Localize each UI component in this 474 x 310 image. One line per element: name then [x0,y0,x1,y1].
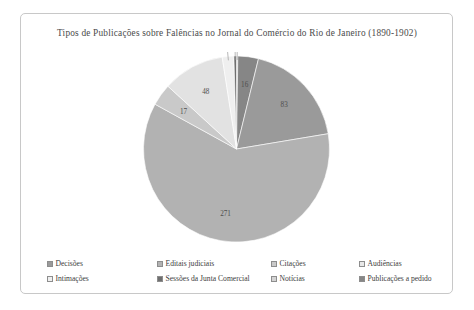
legend-row-1: Decisões Editais judiciais Citações Audi… [33,256,442,271]
legend-item-audiencias[interactable]: Audiências [359,259,442,268]
legend-swatch-intimacoes [47,276,53,282]
legend-item-intimacoes[interactable]: Intimações [33,274,157,283]
legend-label-citacoes: Citações [280,259,306,268]
legend-label-noticias: Notícias [280,274,305,283]
legend-item-citacoes[interactable]: Citações [271,259,359,268]
legend-item-publicacoes-a-pedido[interactable]: Publicações a pedido [359,274,442,283]
legend-label-editais-judiciais: Editais judiciais [166,259,215,268]
legend-swatch-decisoes [47,261,53,267]
legend-item-noticias[interactable]: Notícias [271,274,359,283]
legend-swatch-editais-judiciais [157,261,163,267]
legend-swatch-audiencias [359,261,365,267]
legend-label-decisoes: Decisões [56,259,83,268]
legend-item-editais-judiciais[interactable]: Editais judiciais [157,259,271,268]
legend-swatch-citacoes [271,261,277,267]
pie-slice-value-label: 17 [180,108,188,116]
pie-chart-svg: 11683271174892 [21,52,452,252]
legend-label-publicacoes-a-pedido: Publicações a pedido [368,274,432,283]
pie-slice-value-label: 271 [220,210,231,218]
legend-swatch-noticias [271,276,277,282]
legend-swatch-publicacoes-a-pedido [359,276,365,282]
legend-item-decisoes[interactable]: Decisões [33,259,157,268]
legend-label-intimacoes: Intimações [56,274,89,283]
legend-row-2: Intimações Sessões da Junta Comercial No… [33,271,442,286]
pie-slice-value-label: 83 [281,101,289,109]
legend-label-sessoes-junta-comercial: Sessões da Junta Comercial [166,274,250,283]
chart-title: Tipos de Publicações sobre Falências no … [51,26,423,40]
legend-item-sessoes-junta-comercial[interactable]: Sessões da Junta Comercial [157,274,271,283]
pie-slice-value-label: 16 [241,81,249,89]
legend-swatch-sessoes-junta-comercial [157,276,163,282]
chart-frame: Tipos de Publicações sobre Falências no … [20,13,453,294]
legend-label-audiencias: Audiências [368,259,402,268]
pie-slice-value-label: 48 [202,88,210,96]
chart-legend: Decisões Editais judiciais Citações Audi… [33,256,442,290]
pie-slices-group [143,56,329,242]
pie-chart-area: 11683271174892 [21,52,452,252]
